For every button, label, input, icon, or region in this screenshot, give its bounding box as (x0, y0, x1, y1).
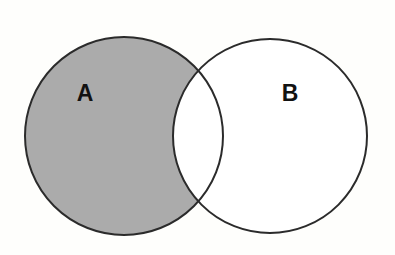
venn-diagram-svg: A B (0, 0, 395, 255)
set-label-a: A (77, 80, 94, 106)
set-label-b: B (282, 80, 299, 106)
venn-diagram-canvas: A B (0, 0, 395, 255)
